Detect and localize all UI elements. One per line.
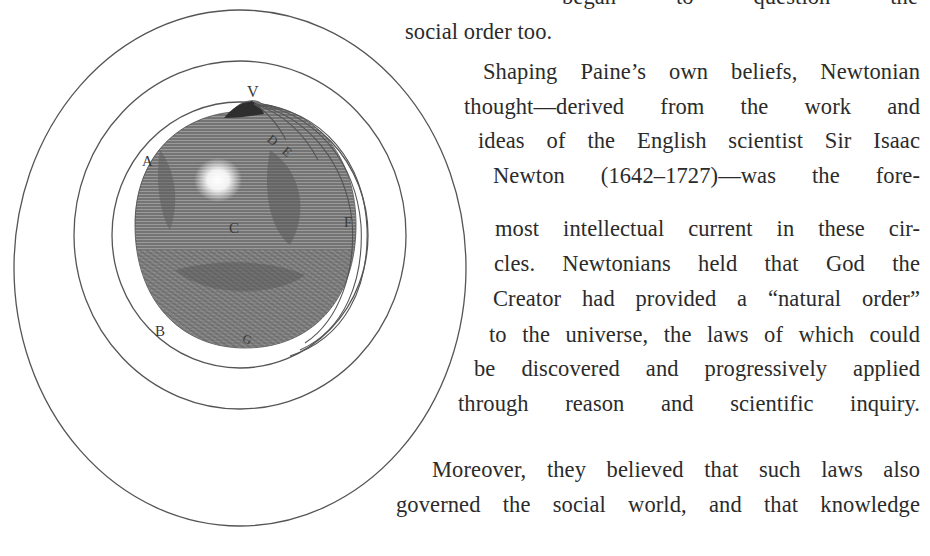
text-line: governed the social world, and that know… [396, 494, 920, 517]
label-v: V [247, 83, 259, 100]
label-b: B [155, 323, 165, 339]
label-f: F [344, 215, 352, 230]
text-line: Moreover, they believed that such laws a… [432, 459, 920, 482]
text-line: cles. Newtonians held that God the [494, 253, 920, 276]
text-line: thought—derived from the work and [464, 96, 920, 119]
newton-orbit-diagram: V A B C D E F G [0, 0, 500, 556]
text-line: began to question the [562, 0, 918, 9]
label-c: C [229, 220, 239, 236]
text-line: be discovered and progressively applied [474, 358, 920, 381]
text-line: through reason and scientific inquiry. [458, 393, 920, 416]
text-line: most intellectual current in these cir- [495, 218, 920, 241]
text-line: social order too. [405, 21, 552, 44]
text-line: ideas of the English scientist Sir Isaac [478, 130, 920, 153]
label-a: A [142, 153, 153, 169]
text-line: Shaping Paine’s own beliefs, Newtonian [483, 61, 920, 84]
text-line: Newton (1642–1727)—was the fore- [493, 165, 920, 188]
text-line: Creator had provided a “natural order” [493, 288, 920, 311]
text-line: to the universe, the laws of which could [489, 324, 920, 347]
